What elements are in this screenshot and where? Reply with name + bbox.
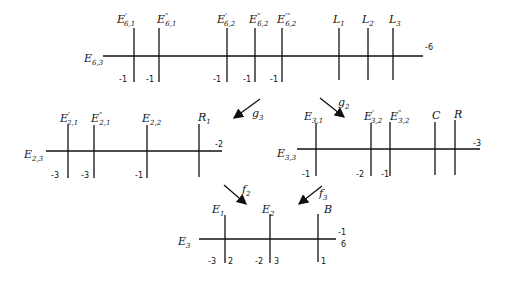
top-configuration: E6,3 -6 E'6,1 E"6,1 E'6,2 E"6,2 E'"6,2 L… xyxy=(83,12,433,84)
svg-text:-3: -3 xyxy=(51,171,59,180)
svg-text:-1: -1 xyxy=(146,75,154,84)
diagram-canvas: E6,3 -6 E'6,1 E"6,1 E'6,2 E"6,2 E'"6,2 L… xyxy=(0,0,508,290)
svg-text:-2: -2 xyxy=(356,170,364,179)
svg-text:-1: -1 xyxy=(119,75,127,84)
svg-text:-1: -1 xyxy=(135,171,143,180)
svg-text:-1: -1 xyxy=(338,228,346,237)
curve-label-l1: L1 xyxy=(332,13,345,28)
svg-text:-1: -1 xyxy=(243,75,251,84)
svg-text:2: 2 xyxy=(228,257,233,266)
svg-text:-1: -1 xyxy=(270,75,278,84)
bottom-configuration: E3 -1 6 E1 E2 B -3 2 -2 3 1 xyxy=(177,203,346,266)
curve-label-b: B xyxy=(323,203,332,216)
curve-label-e2: E2 xyxy=(261,203,275,218)
curve-label-e22: E2,2 xyxy=(141,112,162,127)
svg-text:1: 1 xyxy=(321,257,326,266)
curve-label-e62pp: E"6,2 xyxy=(248,12,269,28)
curve-label-r1: R1 xyxy=(197,111,211,126)
svg-text:-3: -3 xyxy=(81,171,89,180)
svg-text:-1: -1 xyxy=(213,75,221,84)
right-configuration: E3,3 -3 E3,1 E'3,2 E"3,2 C R -1 -2 -1 xyxy=(276,108,481,179)
base-label-e63: E6,3 xyxy=(83,52,104,67)
curve-label-e31: E3,1 xyxy=(303,110,323,125)
curve-label-l3: L3 xyxy=(388,13,401,28)
base-label-e33: E3,3 xyxy=(276,147,297,162)
curve-label-r: R xyxy=(453,108,462,121)
svg-text:6: 6 xyxy=(341,240,346,249)
base-label-e3: E3 xyxy=(177,235,191,250)
curve-label-e61p: E'6,1 xyxy=(116,12,135,28)
svg-text:-3: -3 xyxy=(208,257,216,266)
svg-text:-1: -1 xyxy=(381,170,389,179)
arrow-label-f2: f2 xyxy=(241,183,251,198)
svg-text:-2: -2 xyxy=(255,257,263,266)
curve-label-e32p: E'3,2 xyxy=(363,109,383,125)
arrow-label-f3: f3 xyxy=(318,187,328,202)
self-intersection-top: -6 xyxy=(425,43,433,52)
svg-text:3: 3 xyxy=(274,257,279,266)
arrow-label-g3: g3 xyxy=(252,107,264,122)
left-configuration: E2,3 -2 E'2,1 E"2,1 E2,2 R1 -3 -3 -1 xyxy=(23,111,223,180)
svg-text:-2: -2 xyxy=(215,140,223,149)
curve-label-e21p: E'2,1 xyxy=(59,111,78,127)
base-label-e23: E2,3 xyxy=(23,148,44,163)
svg-text:-1: -1 xyxy=(302,170,310,179)
curve-label-e61pp: E"6,1 xyxy=(156,12,176,28)
curve-label-l2: L2 xyxy=(361,13,374,28)
curve-label-e21pp: E"2,1 xyxy=(90,111,110,127)
curve-label-e32pp: E"3,2 xyxy=(389,109,410,125)
curve-label-e62ppp: E'"6,2 xyxy=(276,12,297,28)
curve-label-e1: E1 xyxy=(211,203,225,218)
arrows: g3 g2 f2 f3 xyxy=(224,96,350,204)
curve-label-c: C xyxy=(432,109,441,122)
arrow-label-g2: g2 xyxy=(338,96,350,111)
curve-label-e62p: E'6,2 xyxy=(216,12,236,28)
svg-text:-3: -3 xyxy=(473,139,481,148)
